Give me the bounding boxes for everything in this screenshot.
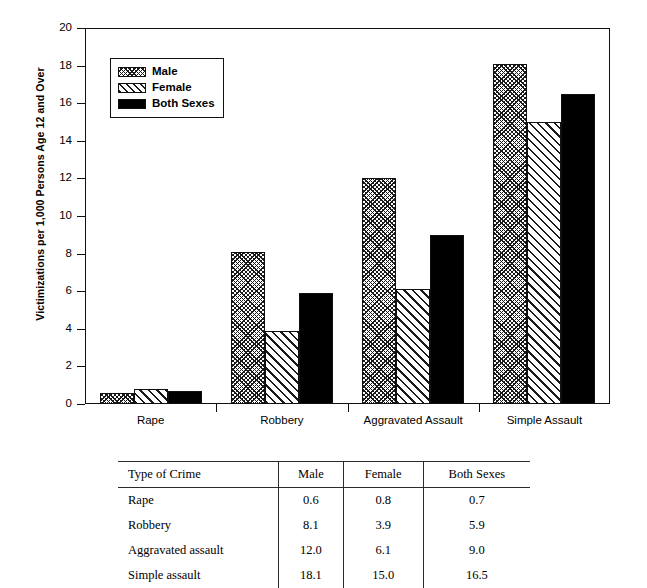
y-axis-tick-label: 2: [28, 360, 72, 372]
bar-aggravated-assault-male: [362, 178, 396, 404]
table-cell-crime-type: Aggravated assault: [118, 538, 279, 563]
table-body: Rape0.60.80.7Robbery8.13.95.9Aggravated …: [118, 488, 530, 588]
table-row: Simple assault18.115.016.5: [118, 563, 530, 588]
y-axis-tick-label: 12: [28, 172, 72, 184]
y-axis-tick-label: 6: [28, 285, 72, 297]
x-axis-label-robbery: Robbery: [260, 414, 303, 426]
table-cell-value: 3.9: [343, 513, 423, 538]
bar-simple-assault-both-sexes: [561, 94, 595, 404]
table-cell-value: 15.0: [343, 563, 423, 588]
table-cell-crime-type: Simple assault: [118, 563, 279, 588]
chart-legend: Male Female Both Sexes: [110, 58, 224, 118]
y-axis-major-tick: [77, 216, 85, 217]
y-axis-major-tick: [77, 141, 85, 142]
table-header-type-of-crime: Type of Crime: [118, 462, 279, 488]
table-cell-crime-type: Robbery: [118, 513, 279, 538]
table-row: Rape0.60.80.7: [118, 488, 530, 514]
table-cell-value: 16.5: [423, 563, 530, 588]
y-axis-major-tick: [77, 254, 85, 255]
legend-label-male: Male: [152, 66, 178, 78]
y-axis-major-tick: [77, 291, 85, 292]
y-axis-tick-label: 4: [28, 323, 72, 335]
y-axis-major-tick: [77, 366, 85, 367]
y-axis-tick-label: 18: [28, 60, 72, 72]
bar-robbery-male: [231, 252, 265, 404]
legend-swatch-female-icon: [118, 83, 146, 93]
y-axis-tick-label: 8: [28, 248, 72, 260]
data-table-container: Type of Crime Male Female Both Sexes Rap…: [118, 461, 530, 588]
table-cell-value: 18.1: [279, 563, 344, 588]
bar-aggravated-assault-both-sexes: [430, 235, 464, 404]
bar-rape-both-sexes: [168, 391, 202, 404]
y-axis-tick-label: 10: [28, 210, 72, 222]
y-axis-major-tick: [77, 66, 85, 67]
table-cell-value: 8.1: [279, 513, 344, 538]
bar-simple-assault-female: [527, 122, 561, 404]
bar-rape-male: [100, 393, 134, 404]
y-axis-tick-label: 20: [28, 22, 72, 34]
y-axis-major-tick: [77, 404, 85, 405]
x-axis-tick: [479, 404, 480, 412]
bar-robbery-both-sexes: [299, 293, 333, 404]
table-cell-value: 6.1: [343, 538, 423, 563]
bar-rape-female: [134, 389, 168, 404]
y-axis-major-tick: [77, 28, 85, 29]
table-cell-value: 0.7: [423, 488, 530, 514]
chart-area: Victimizations per 1,000 Persons Age 12 …: [0, 0, 647, 432]
table-row: Robbery8.13.95.9: [118, 513, 530, 538]
table-header-both-sexes: Both Sexes: [423, 462, 530, 488]
table-header-row: Type of Crime Male Female Both Sexes: [118, 462, 530, 488]
table-cell-value: 5.9: [423, 513, 530, 538]
y-axis-tick-label: 14: [28, 135, 72, 147]
table-head: Type of Crime Male Female Both Sexes: [118, 462, 530, 488]
y-axis-major-tick: [77, 103, 85, 104]
table-header-male: Male: [279, 462, 344, 488]
bar-aggravated-assault-female: [396, 289, 430, 404]
x-axis-label-simple-assault: Simple Assault: [507, 414, 582, 426]
bar-robbery-female: [265, 331, 299, 404]
table-cell-value: 0.8: [343, 488, 423, 514]
table-row: Aggravated assault12.06.19.0: [118, 538, 530, 563]
table-cell-value: 9.0: [423, 538, 530, 563]
bar-simple-assault-male: [493, 64, 527, 404]
legend-label-female: Female: [152, 82, 192, 94]
table-cell-value: 0.6: [279, 488, 344, 514]
x-axis-tick: [348, 404, 349, 412]
y-axis-tick-label: 0: [28, 398, 72, 410]
y-axis-tick-label: 16: [28, 97, 72, 109]
table-cell-crime-type: Rape: [118, 488, 279, 514]
legend-swatch-male-icon: [118, 67, 146, 77]
legend-item-male: Male: [118, 64, 215, 80]
legend-item-both-sexes: Both Sexes: [118, 96, 215, 112]
x-axis-label-rape: Rape: [137, 414, 165, 426]
table-cell-value: 12.0: [279, 538, 344, 563]
table-header-female: Female: [343, 462, 423, 488]
x-axis-tick: [216, 404, 217, 412]
y-axis-major-tick: [77, 178, 85, 179]
legend-label-both-sexes: Both Sexes: [152, 98, 215, 110]
y-axis-major-tick: [77, 329, 85, 330]
x-axis-label-aggravated-assault: Aggravated Assault: [364, 414, 463, 426]
legend-item-female: Female: [118, 80, 215, 96]
crime-victimization-table: Type of Crime Male Female Both Sexes Rap…: [118, 461, 530, 588]
legend-swatch-both-sexes-icon: [118, 99, 146, 109]
